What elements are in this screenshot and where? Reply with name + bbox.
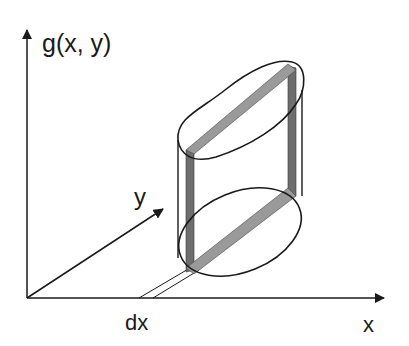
x-axis-label: x	[363, 312, 374, 337]
y-axis	[27, 209, 163, 298]
y-axis-label: y	[134, 183, 146, 210]
slab-base-lines	[139, 268, 199, 298]
integration-diagram: g(x, y) y dx x	[0, 0, 409, 346]
volume-slab	[186, 64, 296, 274]
vertical-axis-label: g(x, y)	[42, 29, 111, 57]
dx-label: dx	[125, 310, 148, 335]
